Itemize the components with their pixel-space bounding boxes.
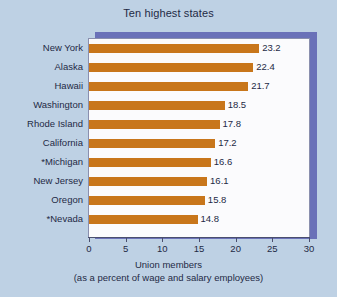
bar-value-label-5: 17.8 (223, 118, 242, 130)
x-tick-4 (199, 238, 200, 242)
plot-data-area: 23.222.421.718.517.817.216.616.115.814.8 (89, 39, 309, 237)
bar-8 (89, 177, 207, 186)
y-axis-label-6: California (43, 137, 83, 149)
x-axis-caption: Union members (as a percent of wage and … (0, 258, 337, 284)
y-axis-label-1: New York (43, 42, 83, 54)
bar-3 (89, 82, 248, 91)
bar-4 (89, 101, 225, 110)
bar-7 (89, 158, 211, 167)
y-axis-label-2: Alaska (54, 61, 83, 73)
bar-2 (89, 63, 253, 72)
y-axis-category-labels: New YorkAlaskaHawaiiWashingtonRhode Isla… (0, 39, 85, 237)
x-tick-label-6: 25 (257, 243, 287, 254)
x-axis-caption-sub: (as a percent of wage and salary employe… (0, 271, 337, 284)
bar-value-label-3: 21.7 (251, 80, 270, 92)
x-tick-5 (236, 238, 237, 242)
y-axis-label-7: *Michigan (41, 156, 83, 168)
x-tick-label-4: 15 (184, 243, 214, 254)
y-axis-label-5: Rhode Island (27, 118, 83, 130)
x-tick-label-2: 5 (111, 243, 141, 254)
x-tick-label-7: 30 (294, 243, 324, 254)
x-tick-2 (126, 238, 127, 242)
bar-value-label-1: 23.2 (262, 42, 281, 54)
bar-value-label-10: 14.8 (201, 213, 220, 225)
y-axis-label-4: Washington (33, 99, 83, 111)
bar-10 (89, 215, 198, 224)
x-axis-caption-main: Union members (0, 258, 337, 271)
chart-title: Ten highest states (0, 7, 337, 19)
bar-value-label-4: 18.5 (228, 99, 247, 111)
y-axis-label-10: *Nevada (47, 213, 83, 225)
x-tick-7 (309, 238, 310, 242)
x-tick-6 (272, 238, 273, 242)
y-axis-label-3: Hawaii (54, 80, 83, 92)
x-tick-1 (89, 238, 90, 242)
bar-value-label-8: 16.1 (210, 175, 229, 187)
bar-value-label-9: 15.8 (208, 194, 227, 206)
bar-value-label-7: 16.6 (214, 156, 233, 168)
x-tick-label-3: 10 (147, 243, 177, 254)
bar-6 (89, 139, 215, 148)
x-tick-label-1: 0 (74, 243, 104, 254)
chart-figure: Ten highest states New YorkAlaskaHawaiiW… (0, 0, 337, 297)
x-tick-3 (162, 238, 163, 242)
bar-5 (89, 120, 220, 129)
bar-value-label-2: 22.4 (256, 61, 275, 73)
y-axis-label-8: New Jersey (33, 175, 83, 187)
bar-value-label-6: 17.2 (218, 137, 237, 149)
bar-1 (89, 44, 259, 53)
x-tick-label-5: 20 (221, 243, 251, 254)
y-axis-label-9: Oregon (51, 194, 83, 206)
bar-9 (89, 196, 205, 205)
